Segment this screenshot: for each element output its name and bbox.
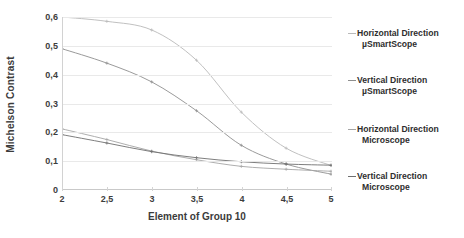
legend-label: Vertical Direction Microscope (356, 171, 427, 193)
series-point-marker (329, 164, 332, 167)
x-tick-label: 5 (318, 194, 344, 204)
legend-item-horizontal-microscope[interactable]: Horizontal Direction Microscope (348, 124, 464, 146)
legend-item-horizontal-smartscope[interactable]: Horizontal Direction µSmartScope (348, 28, 464, 50)
y-axis-title: Michelson Contrast (2, 24, 18, 184)
y-axis-tick-labels: 0,6 0,5 0,4 0,3 0,2 0,1 0 (20, 17, 58, 190)
gridline (62, 17, 332, 18)
y-tick-label: 0,1 (24, 156, 58, 166)
x-axis-title: Element of Group 10 (62, 211, 332, 222)
x-tick-label: 2,5 (94, 194, 120, 204)
legend-line-marker-icon (348, 171, 356, 182)
legend-label: Horizontal Direction Microscope (356, 124, 439, 146)
y-axis-line (62, 17, 63, 190)
legend-label-line1: Vertical Direction (357, 75, 427, 85)
y-axis-title-text: Michelson Contrast (5, 56, 16, 152)
series-line (62, 129, 331, 171)
legend-label: Horizontal Direction µSmartScope (356, 28, 439, 50)
plot-area (62, 17, 332, 190)
y-tick-label: 0,4 (24, 70, 58, 80)
series-point-marker (105, 62, 108, 65)
legend-label-line1: Horizontal Direction (357, 28, 439, 38)
legend-line-marker-icon (348, 75, 356, 86)
x-tick-label: 3,5 (184, 194, 210, 204)
x-axis-tick (287, 187, 288, 191)
y-tick-label: 0,5 (24, 41, 58, 51)
legend-item-vertical-microscope[interactable]: Vertical Direction Microscope (348, 171, 464, 193)
y-tick-label: 0,6 (24, 12, 58, 22)
x-tick-label: 4 (229, 194, 255, 204)
series-point-marker (285, 162, 288, 165)
legend-line-marker-icon (348, 28, 356, 39)
legend-line-marker-icon (348, 124, 356, 135)
series-point-marker (105, 20, 108, 23)
legend-label-line2: Microscope (357, 135, 439, 146)
series-point-marker (240, 165, 243, 168)
series-point-marker (105, 141, 108, 144)
x-axis-tick (107, 187, 108, 191)
series-line (62, 17, 331, 165)
x-tick-label: 3 (139, 194, 165, 204)
series-point-marker (285, 168, 288, 171)
legend-label-line2: µSmartScope (357, 86, 427, 97)
gridline (62, 104, 332, 105)
legend-item-vertical-smartscope[interactable]: Vertical Direction µSmartScope (348, 75, 464, 97)
x-axis-tick (152, 187, 153, 191)
legend-label-line1: Vertical Direction (357, 171, 427, 181)
x-axis-tick (197, 187, 198, 191)
chart-legend: Horizontal Direction µSmartScope Vertica… (348, 14, 464, 219)
x-axis-tick (331, 187, 332, 191)
legend-label-line2: µSmartScope (357, 39, 439, 50)
y-tick-label: 0,3 (24, 99, 58, 109)
x-tick-label: 4,5 (274, 194, 300, 204)
series-point-marker (329, 173, 332, 176)
series-point-marker (150, 28, 153, 31)
gridline (62, 75, 332, 76)
x-tick-label: 2 (49, 194, 75, 204)
legend-label-line1: Horizontal Direction (357, 124, 439, 134)
x-axis-tick (242, 187, 243, 191)
x-axis-tick-labels: 2 2,5 3 3,5 4 4,5 5 (62, 192, 332, 208)
x-axis-tick (62, 187, 63, 191)
legend-label: Vertical Direction µSmartScope (356, 75, 427, 97)
series-point-marker (329, 170, 332, 173)
series-point-marker (195, 156, 198, 159)
chart-root: Michelson Contrast 0,6 0,5 0,4 0,3 0,2 0… (0, 0, 464, 238)
legend-label-line2: Microscope (357, 182, 427, 193)
y-tick-label: 0,2 (24, 127, 58, 137)
gridline (62, 161, 332, 162)
series-point-marker (105, 138, 108, 141)
gridline (62, 46, 332, 47)
gridline (62, 132, 332, 133)
